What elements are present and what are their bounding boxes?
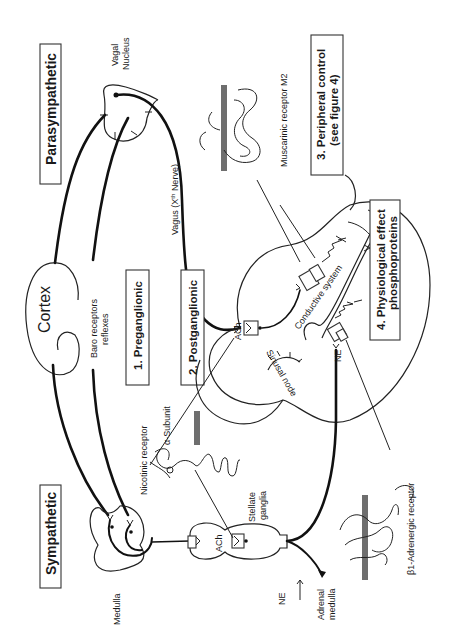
preganglionic-label: 1. Preganglionic <box>132 281 144 370</box>
stellate-ganglia: ACh Stellate ganglia <box>188 491 287 559</box>
ach-ganglia-label: ACh <box>214 534 224 552</box>
adrenal-label-2: medulla <box>327 588 337 620</box>
baro-receptors-label-2: reflexes <box>100 313 110 345</box>
ne-arrow <box>297 580 303 600</box>
adrenal-label-1: Adrenal <box>316 589 326 620</box>
sinusal-node: Sinusal node <box>264 348 302 398</box>
medulla-label: Medulla <box>112 593 122 625</box>
vagal-nucleus-label-2: Nucleus <box>121 37 131 70</box>
ach-synapse-heart: ACh <box>233 321 262 340</box>
ne-heart-label: NE <box>333 349 343 362</box>
sympathetic-fiber-outer <box>55 115 105 263</box>
sinusal-node-label: Sinusal node <box>264 348 299 398</box>
ne-synapse-heart: NE <box>327 322 348 362</box>
vagus-nerve-label: Vagus (Xth Nerve) <box>170 164 180 235</box>
sympathetic-fiber-inner-lower <box>93 370 128 515</box>
beta1-adrenergic-receptor: β1-Adrenergic receptor <box>340 483 416 580</box>
ne-adrenal-label: NE <box>277 592 287 605</box>
cortex-shape: Cortex <box>26 263 79 375</box>
physiological-effect-box: 4. Physiological effect phosphoproteins <box>370 200 400 340</box>
ach-heart-label: ACh <box>233 322 243 340</box>
autonomic-heart-control-diagram: Parasympathetic Vagal Nucleus Muscarinic… <box>0 0 449 641</box>
alpha-subunit-label: α-Subunit <box>162 406 172 445</box>
baro-receptors-label-1: Baro receptors <box>89 298 99 358</box>
sympathetic-title: Sympathetic <box>43 492 59 575</box>
sympathetic-fiber-inner <box>93 118 128 260</box>
peripheral-control-label-2: (see figure 4) <box>328 74 340 146</box>
physiological-effect-label-2: phosphoproteins <box>387 216 399 310</box>
adrenal-arrow-head <box>318 570 326 578</box>
muscarinic-receptor-m2: Muscarinic receptor M2 <box>200 73 289 171</box>
nicotinic-receptor-label: Nicotinic receptor <box>139 425 149 495</box>
adrenal-branch-fiber <box>287 541 322 575</box>
stellate-label-1: Stellate <box>247 492 257 522</box>
arrow-to-effect-bottom <box>335 300 362 318</box>
peripheral-control-box: 3. Peripheral control (see figure 4) <box>311 35 343 175</box>
cortex-label: Cortex <box>36 286 53 333</box>
vagal-nucleus-shape: Vagal Nucleus <box>100 37 158 141</box>
beta1-pointer-line <box>346 340 390 450</box>
parasympathetic-title-box: Parasympathetic <box>40 44 61 184</box>
postganglionic-label: 2. Postganglionic <box>187 279 199 375</box>
nicotinic-receptor: Nicotinic receptor α-Subunit <box>139 406 240 495</box>
vagal-nucleus-label-1: Vagal <box>110 44 120 66</box>
peripheral-control-label-1: 3. Peripheral control <box>315 49 327 160</box>
beta1-receptor-label: β1-Adrenergic receptor <box>406 483 416 575</box>
sympathetic-postganglionic-fiber <box>287 350 336 541</box>
nicotinic-pointer-line <box>195 470 233 538</box>
parasympathetic-title: Parasympathetic <box>43 53 59 165</box>
preganglionic-box: 1. Preganglionic <box>126 270 149 385</box>
sympathetic-title-box: Sympathetic <box>40 485 61 588</box>
postganglionic-box: 2. Postganglionic <box>181 270 204 385</box>
medulla-to-ganglia-fiber <box>152 541 190 542</box>
muscarinic-label: Muscarinic receptor M2 <box>279 73 289 167</box>
stellate-label-2: ganglia <box>258 491 268 520</box>
physiological-effect-label-1: 4. Physiological effect <box>375 209 387 330</box>
medulla-shape: Medulla <box>90 506 152 625</box>
m2-pointer-line <box>257 180 300 262</box>
